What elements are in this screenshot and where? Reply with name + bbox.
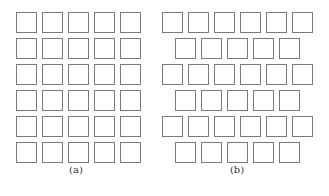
square [94,38,115,59]
square [266,116,287,137]
square [120,142,141,163]
square [94,142,115,163]
square [188,12,209,33]
square [279,142,300,163]
square [266,64,287,85]
square [175,142,196,163]
square [279,90,300,111]
square [292,64,313,85]
square [42,12,63,33]
square [16,116,37,137]
square [240,64,261,85]
square [94,90,115,111]
square [120,90,141,111]
square [42,64,63,85]
square [42,90,63,111]
square [120,38,141,59]
square [16,142,37,163]
square [188,64,209,85]
square [240,12,261,33]
square [292,12,313,33]
square [292,116,313,137]
square [253,38,274,59]
square [16,90,37,111]
square [68,142,89,163]
square [162,12,183,33]
square [42,142,63,163]
square [16,38,37,59]
square [227,142,248,163]
caption-b: (b) [217,164,257,175]
square [68,90,89,111]
square [214,12,235,33]
square [94,116,115,137]
caption-a: (a) [56,164,96,175]
square [253,90,274,111]
square [175,38,196,59]
square [162,116,183,137]
square [188,116,209,137]
square [120,116,141,137]
square [42,38,63,59]
square [120,64,141,85]
square [120,12,141,33]
square [42,116,63,137]
square [227,90,248,111]
square [240,116,261,137]
square [201,142,222,163]
square [94,64,115,85]
square [68,12,89,33]
square [68,38,89,59]
square [201,38,222,59]
square [214,64,235,85]
square [253,142,274,163]
square [16,64,37,85]
square [162,64,183,85]
square [68,64,89,85]
square [94,12,115,33]
square [227,38,248,59]
square [266,12,287,33]
square [279,38,300,59]
square [16,12,37,33]
square [214,116,235,137]
square [68,116,89,137]
square [201,90,222,111]
square [175,90,196,111]
